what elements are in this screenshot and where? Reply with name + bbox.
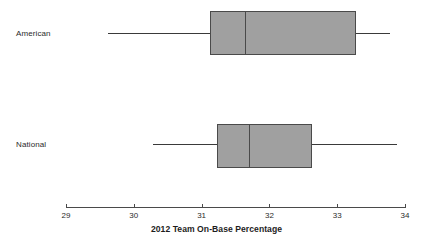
median-american	[245, 11, 246, 55]
box-national	[217, 124, 312, 168]
x-axis-tick-label: 34	[392, 211, 418, 220]
x-axis-tick	[66, 204, 67, 208]
box-plot-chart: American National 293031323334 2012 Team…	[0, 0, 433, 246]
whisker-left-american	[108, 33, 210, 34]
x-axis-tick-label: 32	[256, 211, 282, 220]
median-national	[249, 124, 250, 168]
x-axis-line	[66, 207, 405, 208]
x-axis-title: 2012 Team On-Base Percentage	[0, 224, 433, 234]
x-axis-tick	[202, 204, 203, 208]
box-american	[210, 11, 356, 55]
x-axis-tick	[134, 204, 135, 208]
x-axis-tick-label: 33	[324, 211, 350, 220]
x-axis-tick-label: 31	[189, 211, 215, 220]
whisker-right-national	[312, 144, 397, 145]
x-axis-tick	[337, 204, 338, 208]
category-label-national: National	[16, 140, 46, 149]
x-axis-tick	[405, 204, 406, 208]
whisker-left-national	[153, 144, 217, 145]
x-axis-tick	[269, 204, 270, 208]
x-axis-tick-label: 29	[53, 211, 79, 220]
category-label-american: American	[16, 29, 51, 38]
x-axis-tick-label: 30	[121, 211, 147, 220]
whisker-right-american	[356, 33, 390, 34]
